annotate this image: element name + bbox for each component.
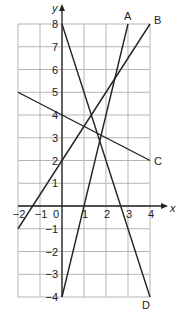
x-tick-label: 0 [53, 208, 59, 220]
x-axis-arrow-icon [161, 203, 168, 209]
x-tick-label: 3 [126, 208, 132, 220]
y-tick-label: 7 [52, 41, 58, 53]
x-tick-label: 4 [148, 208, 154, 220]
y-tick-label: −3 [45, 268, 58, 280]
x-tick-label: 2 [104, 208, 110, 220]
x-axis-label: x [169, 202, 176, 214]
y-tick-label: 5 [52, 86, 58, 98]
y-tick-label: 6 [52, 64, 58, 76]
x-tick-label: −2 [13, 208, 26, 220]
y-axis-label: y [51, 2, 59, 14]
line-label-c: C [154, 155, 162, 167]
x-tick-label: −1 [35, 208, 48, 220]
y-tick-label: 3 [52, 132, 58, 144]
line-label-b: B [154, 14, 161, 26]
line-label-d: D [142, 299, 150, 311]
line-label-a: A [124, 10, 132, 22]
y-tick-label: 2 [52, 155, 58, 167]
y-tick-label: 8 [52, 18, 58, 30]
y-tick-label: −2 [45, 246, 58, 258]
y-tick-label: −4 [45, 291, 58, 303]
y-tick-label: 1 [52, 177, 58, 189]
line-graph: xy−2−101234−4−3−2−112345678ABCD [0, 0, 181, 326]
y-axis-arrow-icon [59, 4, 65, 11]
y-tick-label: −1 [45, 223, 58, 235]
